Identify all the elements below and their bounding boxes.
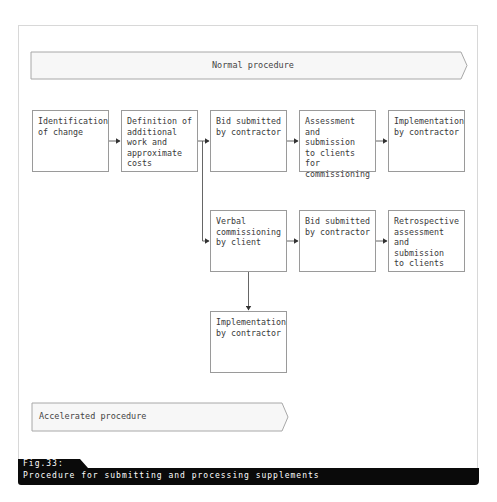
box-bid-submitted-accelerated: Bid submitted by contractor	[299, 210, 376, 272]
box-retrospective-assessment: Retrospective assessment and submission …	[388, 210, 465, 272]
box-assessment-and-submission: Assessment and submission to clients for…	[299, 110, 376, 172]
normal-procedure-label: Normal procedure	[212, 60, 294, 70]
box-definition-of-work: Definition of additional work and approx…	[121, 110, 198, 172]
box-implementation-normal: Implementation by contractor	[388, 110, 465, 172]
box-text: Assessment and submission to clients for…	[305, 116, 370, 179]
figure-caption: Fig.33: Procedure for submitting and pro…	[18, 459, 479, 485]
box-bid-submitted-normal: Bid submitted by contractor	[210, 110, 287, 172]
figure-title: Procedure for submitting and processing …	[23, 471, 320, 480]
accelerated-procedure-label: Accelerated procedure	[39, 411, 146, 421]
box-verbal-commissioning: Verbal commissioning by client	[210, 210, 287, 272]
box-implementation-accelerated: Implementation by contractor	[210, 311, 287, 373]
box-text: Retrospective assessment and submission …	[394, 216, 459, 269]
figure-number: Fig.33:	[23, 459, 64, 468]
box-identification-of-change: Identification of change	[32, 110, 109, 172]
box-text: Verbal commissioning by client	[216, 216, 281, 248]
box-text: Bid submitted by contractor	[216, 116, 281, 137]
box-text: Bid submitted by contractor	[305, 216, 370, 237]
box-text: Identification of change	[38, 116, 103, 137]
box-text: Implementation by contractor	[216, 317, 281, 338]
box-text: Definition of additional work and approx…	[127, 116, 192, 169]
box-text: Implementation by contractor	[394, 116, 459, 137]
